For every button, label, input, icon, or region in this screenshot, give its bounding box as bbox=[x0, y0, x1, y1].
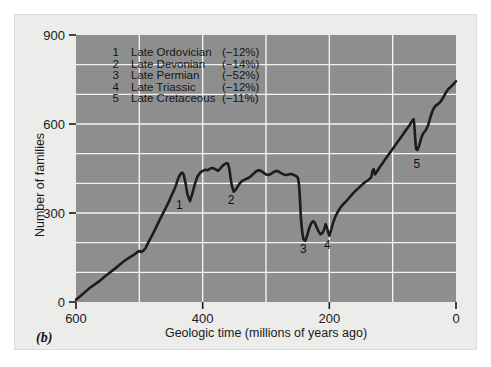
event-label-2: 2 bbox=[228, 193, 235, 207]
legend-event-name: Late Triassic bbox=[131, 81, 196, 93]
y-tick-label: 900 bbox=[43, 28, 65, 43]
x-axis-ticks: 6004002000 bbox=[65, 302, 459, 326]
legend-number: 3 bbox=[113, 69, 119, 81]
y-axis-ticks: 0300600900 bbox=[43, 28, 76, 310]
figure-root: 0300600900 6004002000 12345 1Late Ordovi… bbox=[0, 0, 491, 367]
legend-number: 5 bbox=[113, 92, 119, 104]
legend-number: 4 bbox=[113, 81, 120, 93]
y-axis-title: Number of families bbox=[33, 133, 47, 237]
panel-letter: (b) bbox=[36, 330, 52, 346]
y-tick-label: 600 bbox=[43, 117, 65, 132]
y-tick-label: 0 bbox=[58, 295, 65, 310]
x-axis-title: Geologic time (millions of years ago) bbox=[165, 326, 367, 340]
legend-event-name: Late Ordovician bbox=[131, 46, 212, 58]
x-tick-label: 0 bbox=[452, 311, 459, 326]
legend-event-name: Late Devonian bbox=[131, 58, 205, 70]
legend-drop-percent: (−14%) bbox=[222, 58, 260, 70]
legend-event-name: Late Cretaceous bbox=[131, 92, 216, 104]
legend-drop-percent: (−11%) bbox=[222, 92, 259, 104]
chart-container: 0300600900 6004002000 12345 1Late Ordovi… bbox=[0, 0, 491, 367]
legend-drop-percent: (−12%) bbox=[222, 81, 260, 93]
event-label-1: 1 bbox=[176, 198, 183, 212]
x-tick-label: 200 bbox=[318, 311, 340, 326]
legend-drop-percent: (−12%) bbox=[222, 46, 260, 58]
legend-number: 1 bbox=[113, 46, 119, 58]
legend-drop-percent: (−52%) bbox=[222, 69, 260, 81]
legend-number: 2 bbox=[113, 58, 119, 70]
extinction-line-chart: 0300600900 6004002000 12345 1Late Ordovi… bbox=[0, 0, 491, 367]
event-label-5: 5 bbox=[413, 157, 420, 171]
x-tick-label: 600 bbox=[65, 311, 87, 326]
legend-event-name: Late Permian bbox=[131, 69, 199, 81]
event-label-3: 3 bbox=[300, 242, 307, 256]
event-label-4: 4 bbox=[324, 238, 331, 252]
legend: 1Late Ordovician(−12%)2Late Devonian(−14… bbox=[113, 46, 260, 104]
x-tick-label: 400 bbox=[192, 311, 214, 326]
